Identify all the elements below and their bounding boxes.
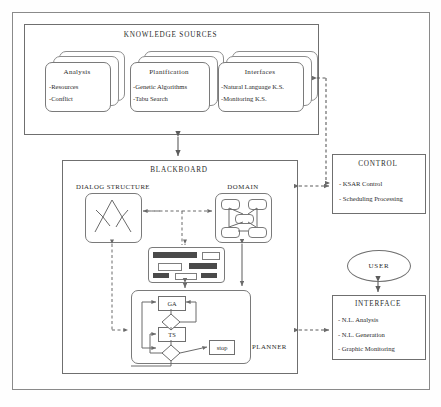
connector-layer: BLACKBOARD --> CONTROL (right elbow) -->… — [0, 0, 441, 407]
diagram-canvas: KNOWLEDGE SOURCES Analysis -Resources -C… — [0, 0, 441, 407]
